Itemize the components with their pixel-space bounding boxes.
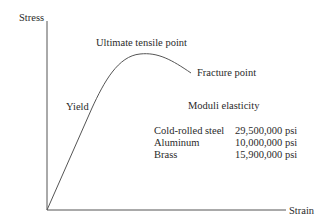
ultimate-tensile-label: Ultimate tensile point [96,37,187,49]
material-cell: Aluminum [154,137,200,149]
fracture-point-label: Fracture point [197,67,256,79]
value-cell: 15,900,000 psi [235,149,297,161]
yield-label: Yield [66,101,89,113]
material-cell: Brass [154,149,177,161]
stress-strain-plot [0,0,332,224]
value-cell: 29,500,000 psi [235,125,297,137]
y-axis-label: Stress [19,12,44,24]
material-cell: Cold-rolled steel [154,125,224,137]
moduli-title: Moduli elasticity [188,100,259,112]
value-cell: 10,000,000 psi [235,137,297,149]
x-axis-label: Strain [289,205,314,217]
